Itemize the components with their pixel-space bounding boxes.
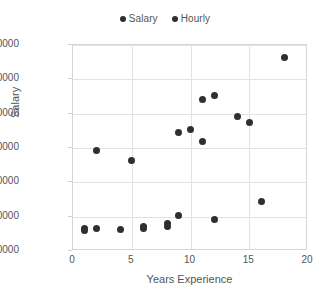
data-point-salary xyxy=(199,138,206,145)
gridline-horizontal xyxy=(73,114,306,115)
y-axis-tick-label: 50000 xyxy=(0,108,19,118)
page-footer-text xyxy=(2,294,328,303)
gridline-horizontal xyxy=(73,45,306,46)
x-axis-title: Years Experience xyxy=(72,274,307,285)
gridline-vertical xyxy=(191,45,192,249)
x-axis-tick-label: 0 xyxy=(52,255,92,265)
gridline-horizontal xyxy=(73,79,306,80)
legend-label: Hourly xyxy=(181,14,211,24)
gridline-horizontal xyxy=(73,148,306,149)
gridline-horizontal xyxy=(73,182,306,183)
y-axis-tick-label: 40000 xyxy=(0,142,19,152)
legend-marker-icon xyxy=(120,16,126,22)
data-point-salary xyxy=(128,157,135,164)
y-axis-tick-label: 70000 xyxy=(0,39,19,49)
data-point-salary xyxy=(211,92,218,99)
data-point-salary xyxy=(258,198,265,205)
data-point-hourly xyxy=(175,212,182,219)
x-axis-tick-label: 5 xyxy=(111,255,151,265)
data-point-salary xyxy=(175,129,182,136)
gridline-vertical xyxy=(249,45,250,249)
gridline-horizontal xyxy=(73,217,306,218)
data-point-hourly xyxy=(93,225,100,232)
legend-entry-hourly[interactable]: Hourly xyxy=(172,14,211,24)
y-axis-tick-label: 20000 xyxy=(0,211,19,221)
data-point-salary xyxy=(199,96,206,103)
data-point-hourly xyxy=(164,223,171,230)
y-axis-tick-label: 60000 xyxy=(0,73,19,83)
data-point-salary xyxy=(187,126,194,133)
scatter-chart: SalaryHourly Salary 10000200003000040000… xyxy=(0,0,330,303)
data-point-salary xyxy=(281,54,288,61)
data-point-salary xyxy=(246,119,253,126)
y-axis-tick-label: 30000 xyxy=(0,176,19,186)
gridline-vertical xyxy=(132,45,133,249)
data-point-salary xyxy=(93,147,100,154)
data-point-salary xyxy=(234,113,241,120)
data-point-hourly xyxy=(117,226,124,233)
data-point-hourly xyxy=(81,227,88,234)
x-axis-tick-label: 15 xyxy=(228,255,268,265)
data-point-hourly xyxy=(140,225,147,232)
legend-entry-salary[interactable]: Salary xyxy=(120,14,158,24)
y-axis-tick-mark xyxy=(68,250,72,251)
x-axis-tick-label: 10 xyxy=(170,255,210,265)
data-point-hourly xyxy=(211,216,218,223)
legend-label: Salary xyxy=(129,14,158,24)
x-axis-tick-label: 20 xyxy=(287,255,327,265)
legend-marker-icon xyxy=(172,16,178,22)
chart-legend: SalaryHourly xyxy=(0,14,330,24)
y-axis-tick-label: 10000 xyxy=(0,245,19,255)
plot-area xyxy=(72,44,307,250)
